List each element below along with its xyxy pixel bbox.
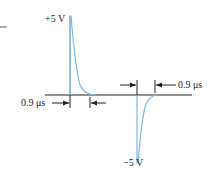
right-arrowhead-out — [156, 83, 162, 88]
pulse-diagram: +5 V −5 V 0.9 μs 0.9 μs — [0, 0, 219, 183]
left-arrowhead-in — [63, 101, 69, 106]
left-width-label: 0.9 μs — [21, 97, 45, 108]
negative-spike — [137, 95, 158, 163]
right-width-label: 0.9 μs — [178, 79, 202, 90]
positive-spike — [70, 16, 96, 95]
positive-peak-label: +5 V — [45, 13, 66, 24]
left-arrowhead-out — [91, 101, 97, 106]
waveform-svg: +5 V −5 V 0.9 μs 0.9 μs — [0, 0, 219, 183]
right-arrowhead-in — [130, 83, 136, 88]
negative-peak-label: −5 V — [123, 157, 144, 168]
